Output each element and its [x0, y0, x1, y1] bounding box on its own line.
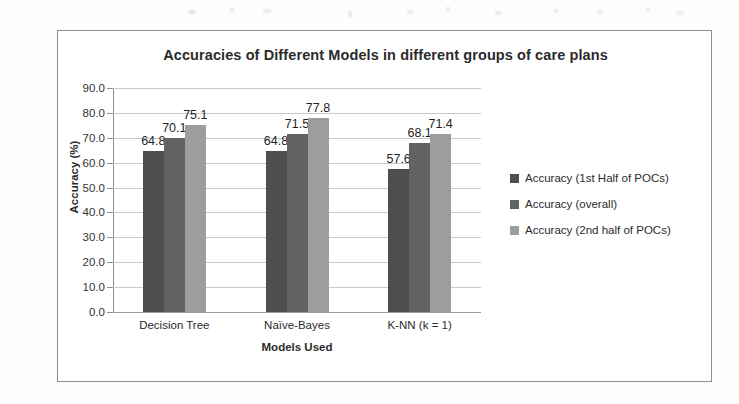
x-axis-title: Models Used [113, 341, 481, 353]
y-axis-tick [107, 113, 113, 114]
chart-frame: Accuracies of Different Models in differ… [57, 30, 712, 382]
bar [164, 138, 185, 312]
bar [143, 151, 164, 312]
plot-area: 64.870.175.164.871.577.857.668.171.4 [113, 88, 481, 312]
bar-value-label: 64.8 [141, 134, 165, 148]
y-axis-tick-label: 40.0 [61, 206, 105, 218]
bar [388, 169, 409, 312]
y-axis-tick-label: 80.0 [61, 107, 105, 119]
bar [266, 151, 287, 312]
y-axis-tick [107, 287, 113, 288]
chart-legend: Accuracy (1st Half of POCs)Accuracy (ove… [510, 165, 706, 243]
x-axis-category-label: Decision Tree [139, 319, 209, 331]
bar-value-label: 70.1 [162, 121, 186, 135]
legend-swatch-icon [510, 226, 519, 235]
gridline [113, 312, 481, 313]
gridline [113, 113, 481, 114]
legend-item: Accuracy (overall) [510, 191, 706, 217]
y-axis-tick [107, 212, 113, 213]
legend-swatch-icon [510, 200, 519, 209]
y-axis-tick [107, 88, 113, 89]
y-axis-tick [107, 163, 113, 164]
y-axis-tick-label: 70.0 [61, 132, 105, 144]
legend-label: Accuracy (2nd half of POCs) [525, 224, 671, 236]
bar-value-label: 71.4 [428, 117, 452, 131]
y-axis-tick [107, 262, 113, 263]
bar-value-label: 77.8 [306, 101, 330, 115]
y-axis-tick-label: 30.0 [61, 231, 105, 243]
bar-value-label: 57.6 [386, 152, 410, 166]
bar [430, 134, 451, 312]
bar-value-label: 71.5 [285, 117, 309, 131]
y-axis-tick [107, 312, 113, 313]
bar [308, 118, 329, 312]
legend-label: Accuracy (1st Half of POCs) [525, 172, 669, 184]
y-axis-tick-label: 10.0 [61, 281, 105, 293]
bar [185, 125, 206, 312]
y-axis-tick-label: 20.0 [61, 256, 105, 268]
legend-swatch-icon [510, 174, 519, 183]
x-axis-category-label: K-NN (k = 1) [388, 319, 452, 331]
y-axis-tick-label: 60.0 [61, 157, 105, 169]
bar-value-label: 64.8 [264, 134, 288, 148]
scan-noise-texture [0, 0, 739, 29]
y-axis-tick-label: 90.0 [61, 82, 105, 94]
y-axis-tick-label: 50.0 [61, 182, 105, 194]
gridline [113, 88, 481, 89]
y-axis-tick [107, 188, 113, 189]
bar [409, 143, 430, 312]
y-axis-tick-labels: 90.080.070.060.050.040.030.020.010.00.0 [58, 31, 105, 383]
bar [287, 134, 308, 312]
legend-item: Accuracy (1st Half of POCs) [510, 165, 706, 191]
y-axis-tick [107, 138, 113, 139]
x-axis-category-label: Naïve-Bayes [264, 319, 330, 331]
legend-item: Accuracy (2nd half of POCs) [510, 217, 706, 243]
legend-label: Accuracy (overall) [525, 198, 617, 210]
y-axis-tick-label: 0.0 [61, 306, 105, 318]
chart-title: Accuracies of Different Models in differ… [58, 47, 713, 63]
y-axis-tick [107, 237, 113, 238]
bar-value-label: 75.1 [183, 108, 207, 122]
